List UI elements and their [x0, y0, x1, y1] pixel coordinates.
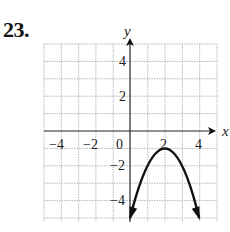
y-tick-neg4: −4 [110, 193, 125, 208]
x-tick-neg4: −4 [49, 137, 64, 152]
x-tick-0: 0 [116, 137, 123, 152]
x-tick-4: 4 [195, 137, 202, 152]
right-arrow-icon [192, 206, 204, 221]
left-arrow-icon [126, 206, 138, 221]
y-tick-4: 4 [119, 54, 126, 69]
parabola-graph: x y −4 −2 0 2 4 4 2 −2 −4 [0, 0, 230, 232]
y-tick-2: 2 [119, 89, 126, 104]
x-tick-neg2: −2 [83, 137, 98, 152]
y-axis-label: y [122, 23, 131, 39]
y-tick-neg2: −2 [110, 158, 125, 173]
x-axis-label: x [221, 123, 229, 139]
